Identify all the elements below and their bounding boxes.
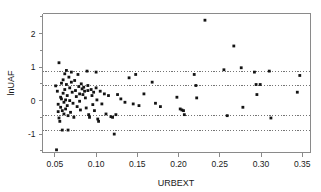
data-point bbox=[159, 105, 162, 108]
x-tick-label-4: 0.25 bbox=[212, 159, 229, 169]
data-point bbox=[65, 83, 68, 86]
data-point bbox=[82, 86, 85, 89]
data-point bbox=[60, 82, 63, 85]
plot-frame bbox=[43, 14, 311, 153]
data-point bbox=[107, 94, 110, 97]
x-axis-label: URBEXT bbox=[158, 178, 195, 188]
data-point bbox=[92, 91, 95, 94]
data-point bbox=[194, 84, 197, 87]
data-point bbox=[298, 74, 301, 77]
x-tick-label-6: 0.35 bbox=[294, 159, 311, 169]
data-point bbox=[90, 88, 93, 91]
data-point bbox=[67, 129, 70, 132]
data-point bbox=[75, 95, 78, 98]
data-point bbox=[55, 148, 58, 151]
data-point bbox=[182, 109, 185, 112]
data-point bbox=[63, 72, 66, 75]
data-point bbox=[83, 90, 86, 93]
data-point bbox=[296, 91, 299, 94]
data-point bbox=[70, 81, 73, 84]
data-point bbox=[91, 103, 94, 106]
data-point bbox=[64, 99, 67, 102]
data-point bbox=[100, 103, 103, 106]
y-axis-ticks: -1012 bbox=[28, 17, 43, 151]
data-point bbox=[60, 98, 63, 101]
x-axis-ticks: 0.050.100.150.200.250.300.35 bbox=[47, 153, 311, 169]
data-point bbox=[154, 102, 157, 105]
data-point bbox=[68, 99, 71, 102]
data-point bbox=[77, 73, 80, 76]
data-point bbox=[99, 90, 102, 93]
x-tick-label-1: 0.10 bbox=[88, 159, 105, 169]
data-point bbox=[195, 97, 198, 100]
data-point bbox=[66, 104, 69, 107]
data-point bbox=[240, 66, 243, 69]
y-tick-label-3: 2 bbox=[31, 29, 36, 39]
data-point bbox=[70, 71, 73, 74]
data-point bbox=[56, 90, 59, 93]
data-point bbox=[67, 76, 70, 79]
data-point bbox=[255, 83, 258, 86]
data-point bbox=[68, 86, 71, 89]
data-point bbox=[84, 97, 87, 100]
data-point bbox=[67, 114, 70, 117]
data-point bbox=[78, 92, 81, 95]
y-tick-label-0: -1 bbox=[28, 129, 36, 139]
data-points-group bbox=[54, 19, 301, 151]
x-tick-label-2: 0.15 bbox=[129, 159, 146, 169]
data-point bbox=[223, 68, 226, 71]
data-point bbox=[143, 92, 146, 95]
data-point bbox=[128, 76, 131, 79]
data-point bbox=[270, 117, 273, 120]
data-point bbox=[93, 109, 96, 112]
data-point bbox=[204, 19, 207, 22]
data-point bbox=[62, 78, 65, 81]
data-point bbox=[69, 111, 72, 114]
y-tick-label-1: 0 bbox=[31, 96, 36, 106]
data-point bbox=[134, 73, 137, 76]
data-point bbox=[65, 69, 68, 72]
data-point bbox=[111, 116, 114, 119]
data-point bbox=[86, 89, 89, 92]
data-point bbox=[59, 106, 62, 109]
chart-canvas: 0.050.100.150.200.250.300.35 -1012 URBEX… bbox=[0, 0, 321, 192]
data-point bbox=[105, 113, 108, 116]
data-point bbox=[86, 70, 89, 73]
data-point bbox=[85, 107, 88, 110]
data-point bbox=[63, 88, 66, 91]
data-point bbox=[66, 94, 69, 97]
data-point bbox=[268, 70, 271, 73]
data-point bbox=[58, 120, 61, 123]
y-axis-label: lnUAF bbox=[6, 70, 16, 96]
data-point bbox=[82, 93, 85, 96]
data-point bbox=[91, 94, 94, 97]
data-point bbox=[61, 129, 64, 132]
data-point bbox=[241, 106, 244, 109]
data-point bbox=[87, 113, 90, 116]
data-point bbox=[151, 81, 154, 84]
data-point bbox=[114, 113, 117, 116]
data-point bbox=[253, 71, 256, 74]
data-point bbox=[71, 91, 74, 94]
data-point bbox=[96, 99, 99, 102]
data-point bbox=[54, 84, 57, 87]
data-point bbox=[193, 73, 196, 76]
data-point bbox=[113, 133, 116, 136]
data-point bbox=[63, 113, 66, 116]
data-point bbox=[62, 92, 65, 95]
data-point bbox=[64, 108, 67, 111]
data-point bbox=[119, 98, 122, 101]
data-point bbox=[95, 86, 98, 89]
data-point bbox=[86, 84, 89, 87]
data-point bbox=[73, 79, 76, 82]
data-point bbox=[79, 109, 82, 112]
data-point bbox=[57, 110, 60, 113]
data-point bbox=[88, 116, 91, 119]
data-point bbox=[97, 120, 100, 123]
x-tick-label-0: 0.05 bbox=[47, 159, 64, 169]
data-point bbox=[256, 93, 259, 96]
data-point bbox=[77, 85, 80, 88]
data-point bbox=[176, 96, 179, 99]
x-tick-label-5: 0.30 bbox=[253, 159, 270, 169]
data-point bbox=[78, 100, 81, 103]
